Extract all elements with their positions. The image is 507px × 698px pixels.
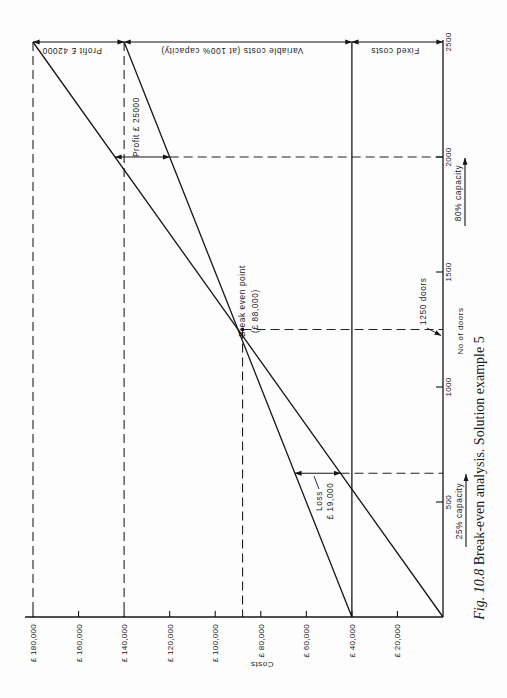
doors-1250-label: 1250 doors xyxy=(418,277,428,325)
break-even-chart: £ 20,000£ 40,000£ 60,000£ 80,000£ 100,00… xyxy=(0,0,507,698)
doors-tick-label: 2500 xyxy=(444,32,453,51)
cost-tick-label: £ 160,000 xyxy=(75,624,84,663)
cost-tick-label: £ 60,000 xyxy=(302,624,311,658)
cost-tick-label: £ 40,000 xyxy=(348,624,357,658)
break-even-value-label: (£ 88,000) xyxy=(250,289,260,333)
cost-tick-label: £ 20,000 xyxy=(393,624,402,658)
doors-tick-label: 1000 xyxy=(444,377,453,396)
y-axis-title-costs: Costs xyxy=(251,660,274,669)
doors-tick-label: 500 xyxy=(444,495,453,509)
capacity-25-label: 25% capacity xyxy=(454,482,464,539)
profit-42000-label: Profit £ 42000 xyxy=(42,46,102,56)
break-even-label: Break even point xyxy=(237,265,247,337)
figure-number: Fig. 10.8 xyxy=(472,569,487,621)
variable-costs-label: Variable costs (at 100% capacity) xyxy=(161,46,303,56)
fixed-costs-label: Fixed costs xyxy=(371,46,420,56)
x-axis-title-doors: No of doors xyxy=(456,308,465,355)
loss-value-label: £ 19,000 xyxy=(325,482,335,519)
cost-tick-label: £ 140,000 xyxy=(120,624,129,663)
figure-caption-text: Break-even analysis. Solution example 5 xyxy=(472,336,487,569)
capacity-80-label: 80% capacity xyxy=(453,164,463,221)
cost-tick-label: £ 120,000 xyxy=(166,624,175,663)
doors-tick-label: 1500 xyxy=(444,262,453,281)
profit-25000-label: Profit £ 25000 xyxy=(131,97,141,157)
chart-labels-layer: £ 20,000£ 40,000£ 60,000£ 80,000£ 100,00… xyxy=(29,32,464,662)
loss-label: Loss xyxy=(314,491,324,511)
figure-caption: Fig. 10.8 Break-even analysis. Solution … xyxy=(472,336,487,620)
cost-tick-label: £ 180,000 xyxy=(29,624,38,663)
loss-leader-line xyxy=(314,476,319,489)
doors-tick-label: 2000 xyxy=(444,147,453,166)
cost-tick-label: £ 80,000 xyxy=(257,624,266,658)
cost-tick-label: £ 100,000 xyxy=(211,624,220,663)
